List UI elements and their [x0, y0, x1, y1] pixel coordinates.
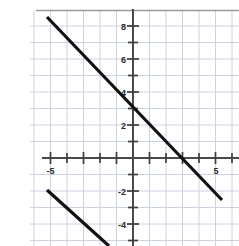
coordinate-plane-plot: 8 6 4 2 -2 -4 -5 5: [0, 0, 239, 246]
x-tick-label-neg5: -5: [46, 166, 54, 176]
graph-screenshot: ©: [0, 0, 239, 246]
y-tick-label-neg2: -2: [118, 187, 126, 197]
y-tick-label-2: 2: [121, 121, 126, 131]
plot-background: [0, 0, 239, 246]
y-tick-label-neg4: -4: [118, 220, 126, 230]
y-tick-label-8: 8: [121, 22, 126, 32]
x-tick-label-5: 5: [213, 166, 218, 176]
y-tick-label-6: 6: [121, 55, 126, 65]
